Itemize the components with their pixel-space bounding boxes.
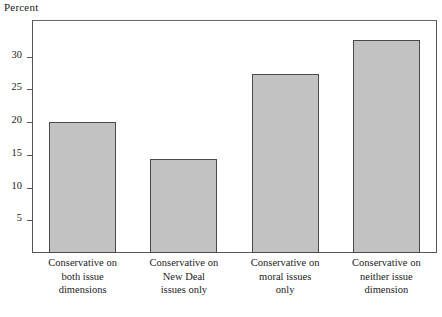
x-axis-category-label-line: Conservative on <box>133 256 234 270</box>
x-axis-category-label-line: dimensions <box>32 283 133 297</box>
x-axis-category-label-line: neither issue <box>336 270 437 284</box>
x-axis-category-label-line: only <box>235 283 336 297</box>
bars-layer <box>32 20 437 253</box>
bar <box>150 159 217 253</box>
x-axis-category-label: Conservative onNew Dealissues only <box>133 256 234 297</box>
x-axis-category-label-line: Conservative on <box>336 256 437 270</box>
x-axis-category-label: Conservative onboth issuedimensions <box>32 256 133 297</box>
bar <box>252 74 319 253</box>
y-axis-tick-label: 20 <box>12 114 23 125</box>
x-axis-category-label-line: both issue <box>32 270 133 284</box>
x-axis-category-label-line: New Deal <box>133 270 234 284</box>
y-axis-tick-label: 5 <box>17 212 22 223</box>
x-axis-category-label: Conservative onmoral issuesonly <box>235 256 336 297</box>
x-axis-category-label-line: Conservative on <box>235 256 336 270</box>
y-axis-tick-label: 10 <box>12 180 23 191</box>
y-axis-title: Percent <box>4 1 38 13</box>
bar <box>353 40 420 253</box>
y-axis-tick-label: 25 <box>12 81 23 92</box>
x-axis-category-label-line: moral issues <box>235 270 336 284</box>
x-axis-category-labels: Conservative onboth issuedimensionsConse… <box>32 256 437 314</box>
x-axis-category-label: Conservative onneither issuedimension <box>336 256 437 297</box>
y-axis-tick-label: 15 <box>12 147 23 158</box>
bar <box>49 122 116 253</box>
x-axis-category-label-line: dimension <box>336 283 437 297</box>
bar-chart: Percent 51015202530 Conservative onboth … <box>0 0 442 317</box>
x-axis-category-label-line: Conservative on <box>32 256 133 270</box>
x-axis-category-label-line: issues only <box>133 283 234 297</box>
y-axis-tick-label: 30 <box>12 49 23 60</box>
